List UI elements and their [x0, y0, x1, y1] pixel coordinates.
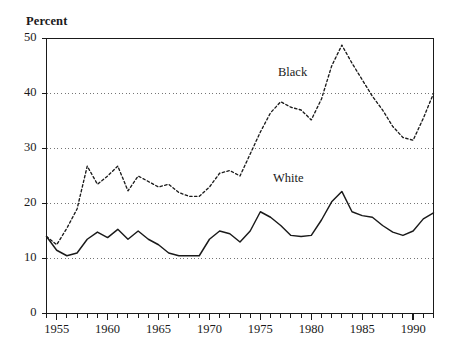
y-tick-label: 40 [11, 85, 37, 100]
x-tick-label: 1990 [393, 322, 433, 337]
x-tick-label: 1980 [291, 322, 331, 337]
x-tick-label: 1970 [189, 322, 229, 337]
y-tick-label: 30 [11, 140, 37, 155]
y-tick-label: 50 [11, 30, 37, 45]
x-tick-label: 1975 [240, 322, 280, 337]
y-tick-label: 0 [11, 305, 37, 320]
x-tick-label: 1955 [37, 322, 77, 337]
chart-figure: Percent 01020304050 19551960196519701975… [0, 0, 458, 363]
y-tick-label: 10 [11, 250, 37, 265]
y-axis-title: Percent [26, 14, 67, 29]
series-label-white: White [273, 171, 304, 186]
x-tick-label: 1965 [139, 322, 179, 337]
line-chart-plot [0, 0, 458, 363]
x-tick-label: 1985 [342, 322, 382, 337]
x-tick-label: 1960 [88, 322, 128, 337]
data-series-group [47, 45, 434, 256]
series-line-black [47, 45, 434, 245]
series-label-black: Black [278, 65, 307, 80]
y-tick-label: 20 [11, 195, 37, 210]
series-line-white [47, 191, 434, 255]
